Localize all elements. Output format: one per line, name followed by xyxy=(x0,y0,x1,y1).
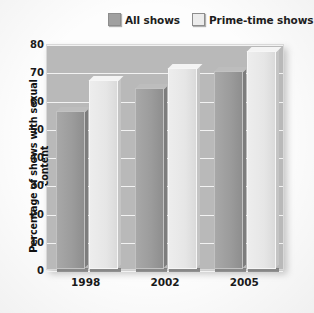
y-axis-tick-label: 30 xyxy=(14,180,44,191)
bar-group xyxy=(126,45,205,269)
bar-all-shows-2002 xyxy=(135,88,164,269)
y-axis-tick-label: 20 xyxy=(14,208,44,219)
y-axis-tick-label: 80 xyxy=(14,39,44,50)
bar-group xyxy=(47,45,126,269)
bar-side-face xyxy=(164,86,167,268)
x-axis-tick-label: 2005 xyxy=(214,276,274,288)
y-axis-tick-label: 10 xyxy=(14,236,44,247)
bar-series-container xyxy=(47,45,283,269)
bar-front-face xyxy=(214,71,243,269)
plot-area xyxy=(46,44,284,270)
bar-prime-time-shows-2002 xyxy=(168,68,197,269)
legend-swatch-light-icon xyxy=(192,13,205,26)
x-axis-labels: 199820022005 xyxy=(46,276,284,294)
bar-front-face xyxy=(168,68,197,269)
bar-prime-time-shows-1998 xyxy=(89,80,118,269)
legend-label-prime-time-shows: Prime-time shows xyxy=(209,14,314,26)
x-axis-tick-label: 1998 xyxy=(56,276,116,288)
legend-label-all-shows: All shows xyxy=(125,14,180,26)
legend-entry-prime-time-shows: Prime-time shows xyxy=(192,13,314,26)
chart-legend: All shows Prime-time shows xyxy=(108,13,314,26)
bar-front-face xyxy=(247,51,276,269)
y-axis-tick-label: 0 xyxy=(14,265,44,276)
bar-all-shows-2005 xyxy=(214,71,243,269)
y-axis-ticks: 01020304050607080 xyxy=(0,44,44,270)
bar-front-face xyxy=(56,111,85,269)
y-axis-tick-label: 60 xyxy=(14,95,44,106)
bar-side-face xyxy=(118,77,121,267)
bar-side-face xyxy=(197,66,200,268)
bar-side-face xyxy=(243,69,246,268)
bar-group xyxy=(206,45,285,269)
legend-entry-all-shows: All shows xyxy=(108,13,180,26)
legend-swatch-dark-icon xyxy=(108,13,121,26)
y-axis-tick-label: 70 xyxy=(14,67,44,78)
bar-all-shows-1998 xyxy=(56,111,85,269)
x-axis-tick-label: 2002 xyxy=(135,276,195,288)
y-axis-tick-label: 50 xyxy=(14,123,44,134)
y-axis-tick-label: 40 xyxy=(14,152,44,163)
bar-prime-time-shows-2005 xyxy=(247,51,276,269)
bar-side-face xyxy=(85,108,88,267)
bar-chart-figure: All shows Prime-time shows Percentage of… xyxy=(0,0,314,313)
bar-front-face xyxy=(135,88,164,269)
bar-front-face xyxy=(89,80,118,269)
bar-side-face xyxy=(276,49,279,268)
